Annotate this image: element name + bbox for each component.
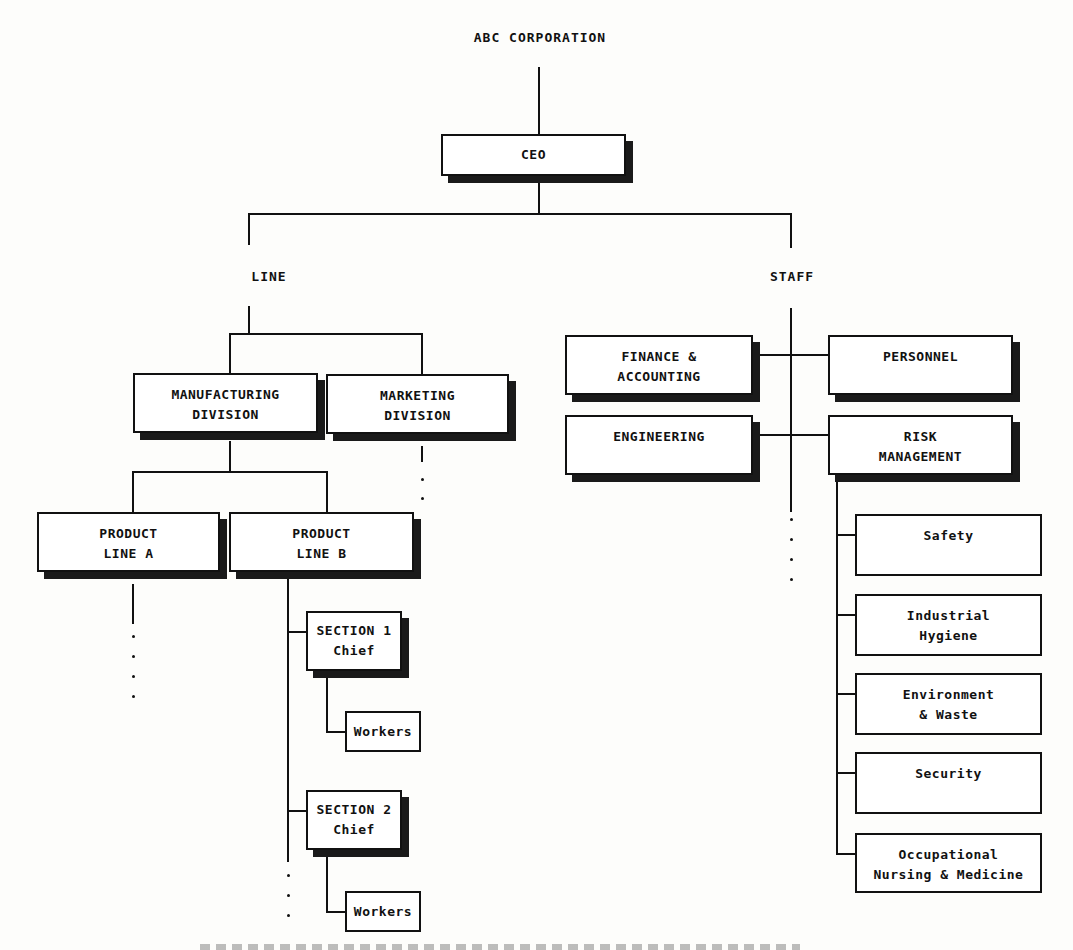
connector <box>326 678 328 732</box>
connector <box>326 911 346 913</box>
node-marketing-division: MARKETING DIVISION <box>326 374 509 434</box>
node-label: MARKETING <box>380 386 455 406</box>
node-label: PRODUCT <box>99 524 157 544</box>
connector <box>229 333 231 375</box>
node-label: DIVISION <box>384 406 451 426</box>
connector <box>132 584 134 624</box>
branch-label-line: LINE <box>249 269 289 284</box>
connector <box>790 213 792 248</box>
figure-caption-clipped <box>200 944 800 950</box>
continuation-dot <box>132 675 135 678</box>
node-engineering: ENGINEERING <box>565 415 753 475</box>
continuation-dot <box>421 478 424 481</box>
connector <box>248 213 792 215</box>
continuation-dot <box>790 538 793 541</box>
connector <box>248 306 250 334</box>
connector <box>836 534 856 536</box>
connector <box>756 354 828 356</box>
continuation-dot <box>287 874 290 877</box>
node-label: DIVISION <box>192 405 259 425</box>
node-manufacturing-division: MANUFACTURING DIVISION <box>133 373 318 433</box>
node-label: Environment <box>903 685 995 705</box>
continuation-dot <box>790 518 793 521</box>
node-environment-waste: Environment & Waste <box>855 673 1042 735</box>
connector <box>326 731 346 733</box>
continuation-dot <box>790 578 793 581</box>
node-label: CEO <box>521 145 546 165</box>
node-label: PRODUCT <box>292 524 350 544</box>
continuation-dot <box>421 497 424 500</box>
connector <box>836 482 838 855</box>
node-section-1-chief: SECTION 1 Chief <box>306 611 402 671</box>
connector <box>229 441 231 471</box>
node-industrial-hygiene: Industrial Hygiene <box>855 594 1042 656</box>
node-security: Security <box>855 752 1042 814</box>
node-personnel: PERSONNEL <box>828 335 1013 395</box>
branch-label-staff: STAFF <box>767 269 817 284</box>
node-workers-1: Workers <box>345 711 421 752</box>
node-label: Security <box>915 764 982 784</box>
connector <box>836 853 856 855</box>
node-label: Chief <box>333 820 375 840</box>
node-label: SECTION 1 <box>317 621 392 641</box>
connector <box>538 67 540 135</box>
connector <box>132 471 134 513</box>
connector <box>421 333 423 375</box>
connector <box>790 308 792 512</box>
node-label: SECTION 2 <box>317 800 392 820</box>
connector <box>836 693 856 695</box>
node-label: & Waste <box>919 705 977 725</box>
connector <box>132 471 328 473</box>
node-label: Hygiene <box>919 626 977 646</box>
connector <box>326 857 328 912</box>
org-title: ABC CORPORATION <box>465 30 615 45</box>
connector <box>229 333 423 335</box>
node-product-line-b: PRODUCT LINE B <box>229 512 414 572</box>
node-label: Workers <box>354 902 412 922</box>
continuation-dot <box>287 914 290 917</box>
node-label: Occupational <box>899 845 999 865</box>
node-label: LINE A <box>104 544 154 564</box>
continuation-dot <box>132 695 135 698</box>
node-label: ACCOUNTING <box>617 367 700 387</box>
connector <box>287 631 307 633</box>
connector <box>756 434 828 436</box>
connector <box>287 810 307 812</box>
connector <box>538 183 540 213</box>
connector <box>326 471 328 513</box>
node-workers-2: Workers <box>345 891 421 932</box>
connector <box>836 772 856 774</box>
node-section-2-chief: SECTION 2 Chief <box>306 790 402 850</box>
continuation-dot <box>132 635 135 638</box>
node-label: PERSONNEL <box>883 347 958 367</box>
continuation-dot <box>790 558 793 561</box>
connector <box>421 446 423 462</box>
node-label: Nursing & Medicine <box>874 865 1024 885</box>
node-occupational-nursing-medicine: Occupational Nursing & Medicine <box>855 833 1042 893</box>
connector <box>248 213 250 245</box>
node-label: RISK <box>904 427 937 447</box>
node-label: MANUFACTURING <box>171 385 279 405</box>
continuation-dot <box>132 655 135 658</box>
node-label: MANAGEMENT <box>879 447 962 467</box>
node-label: LINE B <box>297 544 347 564</box>
node-label: FINANCE & <box>622 347 697 367</box>
node-label: Industrial <box>907 606 990 626</box>
node-label: ENGINEERING <box>613 427 705 447</box>
connector <box>836 614 856 616</box>
node-safety: Safety <box>855 514 1042 576</box>
node-finance-accounting: FINANCE & ACCOUNTING <box>565 335 753 395</box>
node-risk-management: RISK MANAGEMENT <box>828 415 1013 475</box>
node-label: Workers <box>354 722 412 742</box>
connector <box>287 579 289 862</box>
continuation-dot <box>287 894 290 897</box>
node-product-line-a: PRODUCT LINE A <box>37 512 220 572</box>
node-label: Safety <box>924 526 974 546</box>
node-label: Chief <box>333 641 375 661</box>
node-ceo: CEO <box>441 134 626 176</box>
